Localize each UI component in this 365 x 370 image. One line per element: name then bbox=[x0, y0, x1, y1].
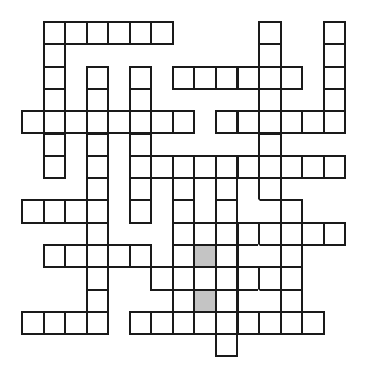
grid-cell[interactable] bbox=[258, 266, 282, 290]
grid-cell[interactable] bbox=[129, 110, 153, 134]
grid-cell[interactable] bbox=[86, 199, 110, 223]
grid-cell[interactable] bbox=[129, 133, 153, 157]
grid-cell[interactable] bbox=[280, 222, 304, 246]
grid-cell[interactable] bbox=[172, 177, 196, 201]
grid-cell[interactable] bbox=[43, 88, 67, 112]
grid-cell[interactable] bbox=[323, 43, 347, 67]
grid-cell[interactable] bbox=[43, 244, 67, 268]
grid-cell[interactable] bbox=[150, 311, 174, 335]
grid-cell[interactable] bbox=[237, 222, 261, 246]
grid-cell[interactable] bbox=[43, 311, 67, 335]
grid-cell[interactable] bbox=[215, 222, 239, 246]
grid-cell[interactable] bbox=[129, 21, 153, 45]
grid-cell[interactable] bbox=[237, 244, 261, 268]
grid-cell[interactable] bbox=[323, 155, 347, 179]
grid-cell[interactable] bbox=[258, 199, 282, 223]
grid-cell-shaded[interactable] bbox=[193, 289, 217, 313]
grid-cell[interactable] bbox=[43, 155, 67, 179]
grid-cell[interactable] bbox=[172, 244, 196, 268]
grid-cell[interactable] bbox=[21, 199, 45, 223]
grid-cell[interactable] bbox=[129, 311, 153, 335]
grid-cell[interactable] bbox=[280, 244, 304, 268]
grid-cell[interactable] bbox=[280, 155, 304, 179]
grid-cell[interactable] bbox=[150, 110, 174, 134]
grid-cell[interactable] bbox=[323, 88, 347, 112]
grid-cell[interactable] bbox=[258, 155, 282, 179]
grid-cell[interactable] bbox=[237, 311, 261, 335]
grid-cell[interactable] bbox=[323, 66, 347, 90]
grid-cell[interactable] bbox=[301, 110, 325, 134]
grid-cell[interactable] bbox=[43, 199, 67, 223]
grid-cell[interactable] bbox=[172, 289, 196, 313]
grid-cell[interactable] bbox=[172, 311, 196, 335]
grid-cell[interactable] bbox=[237, 66, 261, 90]
grid-cell[interactable] bbox=[280, 199, 304, 223]
grid-cell[interactable] bbox=[86, 311, 110, 335]
grid-cell[interactable] bbox=[215, 244, 239, 268]
grid-cell[interactable] bbox=[86, 244, 110, 268]
grid-cell[interactable] bbox=[258, 311, 282, 335]
grid-cell-shaded[interactable] bbox=[193, 244, 217, 268]
grid-cell[interactable] bbox=[86, 155, 110, 179]
grid-cell[interactable] bbox=[280, 311, 304, 335]
grid-cell[interactable] bbox=[280, 110, 304, 134]
grid-cell[interactable] bbox=[107, 21, 131, 45]
grid-cell[interactable] bbox=[43, 66, 67, 90]
grid-cell[interactable] bbox=[129, 244, 153, 268]
grid-cell[interactable] bbox=[215, 155, 239, 179]
grid-cell[interactable] bbox=[258, 244, 282, 268]
grid-cell[interactable] bbox=[301, 222, 325, 246]
grid-cell[interactable] bbox=[215, 199, 239, 223]
grid-cell[interactable] bbox=[129, 177, 153, 201]
grid-cell[interactable] bbox=[64, 199, 88, 223]
grid-cell[interactable] bbox=[280, 289, 304, 313]
grid-cell[interactable] bbox=[172, 66, 196, 90]
grid-cell[interactable] bbox=[150, 155, 174, 179]
grid-cell[interactable] bbox=[172, 199, 196, 223]
grid-cell[interactable] bbox=[215, 266, 239, 290]
grid-cell[interactable] bbox=[237, 266, 261, 290]
grid-cell[interactable] bbox=[280, 66, 304, 90]
grid-cell[interactable] bbox=[193, 266, 217, 290]
grid-cell[interactable] bbox=[193, 66, 217, 90]
grid-cell[interactable] bbox=[86, 66, 110, 90]
grid-cell[interactable] bbox=[323, 21, 347, 45]
grid-cell[interactable] bbox=[258, 88, 282, 112]
grid-cell[interactable] bbox=[86, 21, 110, 45]
grid-cell[interactable] bbox=[150, 21, 174, 45]
grid-cell[interactable] bbox=[258, 43, 282, 67]
grid-cell[interactable] bbox=[86, 177, 110, 201]
grid-cell[interactable] bbox=[237, 289, 261, 313]
grid-cell[interactable] bbox=[43, 43, 67, 67]
grid-cell[interactable] bbox=[323, 222, 347, 246]
grid-cell[interactable] bbox=[129, 155, 153, 179]
grid-cell[interactable] bbox=[215, 177, 239, 201]
grid-cell[interactable] bbox=[64, 21, 88, 45]
grid-cell[interactable] bbox=[193, 155, 217, 179]
grid-cell[interactable] bbox=[129, 88, 153, 112]
grid-cell[interactable] bbox=[215, 66, 239, 90]
grid-cell[interactable] bbox=[172, 222, 196, 246]
grid-cell[interactable] bbox=[107, 244, 131, 268]
grid-cell[interactable] bbox=[323, 110, 347, 134]
grid-cell[interactable] bbox=[86, 222, 110, 246]
grid-cell[interactable] bbox=[258, 133, 282, 157]
grid-cell[interactable] bbox=[172, 110, 196, 134]
grid-cell[interactable] bbox=[21, 110, 45, 134]
grid-cell[interactable] bbox=[129, 66, 153, 90]
grid-cell[interactable] bbox=[107, 110, 131, 134]
grid-cell[interactable] bbox=[43, 110, 67, 134]
grid-cell[interactable] bbox=[86, 133, 110, 157]
grid-cell[interactable] bbox=[237, 155, 261, 179]
grid-cell[interactable] bbox=[64, 311, 88, 335]
grid-cell[interactable] bbox=[172, 155, 196, 179]
grid-cell[interactable] bbox=[258, 177, 282, 201]
grid-cell[interactable] bbox=[86, 88, 110, 112]
grid-cell[interactable] bbox=[258, 66, 282, 90]
grid-cell[interactable] bbox=[86, 110, 110, 134]
grid-cell[interactable] bbox=[193, 222, 217, 246]
grid-cell[interactable] bbox=[64, 244, 88, 268]
grid-cell[interactable] bbox=[258, 222, 282, 246]
grid-cell[interactable] bbox=[64, 110, 88, 134]
grid-cell[interactable] bbox=[86, 289, 110, 313]
